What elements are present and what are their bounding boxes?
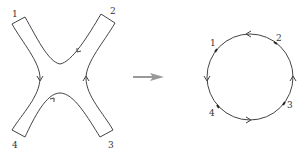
point-mark-3: [283, 102, 285, 105]
diagram-canvas: 1 2 3 4 1 2 3 4: [0, 0, 303, 152]
circle-outline: [207, 34, 293, 120]
label-2: 2: [110, 6, 116, 16]
circle-label-4: 4: [209, 108, 215, 118]
label-1: 1: [12, 9, 18, 19]
transform-arrow: [133, 73, 164, 81]
circle-label-3: 3: [287, 100, 293, 110]
circle-figure: 1 2 3 4: [204, 31, 296, 123]
arrow-up-bottom-left-icon: [50, 98, 54, 102]
point-mark-4: [217, 105, 219, 108]
point-mark-1: [215, 49, 217, 52]
x-ribbon-figure: 1 2 3 4: [12, 6, 116, 150]
circle-label-1: 1: [210, 38, 216, 48]
label-4: 4: [12, 140, 18, 150]
label-3: 3: [108, 140, 114, 150]
x-ribbon-outline: [12, 14, 115, 137]
circle-label-2: 2: [276, 33, 282, 43]
